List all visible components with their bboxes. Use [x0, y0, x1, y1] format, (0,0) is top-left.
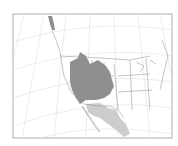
range-map	[0, 0, 178, 146]
